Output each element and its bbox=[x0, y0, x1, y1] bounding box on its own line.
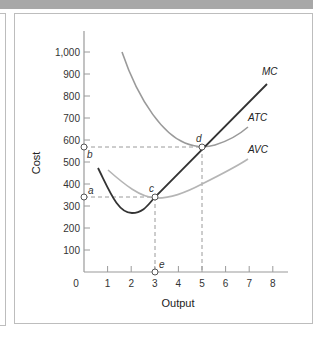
x-tick-8: 8 bbox=[270, 278, 276, 289]
point-d-label: d bbox=[196, 133, 202, 144]
y-tick-900: 900 bbox=[63, 69, 80, 80]
mc-label: MC bbox=[262, 66, 278, 77]
y-tick-800: 800 bbox=[63, 91, 80, 102]
y-tick-500: 500 bbox=[63, 157, 80, 168]
y-tick-400: 400 bbox=[63, 179, 80, 190]
point-d bbox=[199, 144, 205, 150]
x-tick-1: 1 bbox=[105, 278, 111, 289]
point-e bbox=[152, 269, 158, 275]
y-tick-300: 300 bbox=[63, 201, 80, 212]
y-tick-600: 600 bbox=[63, 135, 80, 146]
y-axis-title: Cost bbox=[30, 152, 42, 175]
atc-curve bbox=[122, 52, 248, 147]
y-tick-100: 100 bbox=[63, 245, 80, 256]
point-a bbox=[81, 194, 87, 200]
y-tick-200: 200 bbox=[63, 223, 80, 234]
x-tick-5: 5 bbox=[199, 278, 205, 289]
point-c bbox=[152, 194, 158, 200]
y-tick-labels: 100 200 300 400 500 600 700 800 900 1,00… bbox=[55, 47, 80, 256]
x-tick-2: 2 bbox=[128, 278, 134, 289]
avc-curve bbox=[108, 159, 248, 198]
x-tick-0: 0 bbox=[73, 278, 79, 289]
x-ticks bbox=[108, 266, 273, 272]
point-e-label: e bbox=[159, 259, 165, 270]
y-tick-1000: 1,000 bbox=[55, 47, 80, 58]
x-axis-title: Output bbox=[161, 297, 194, 309]
x-tick-6: 6 bbox=[223, 278, 229, 289]
x-tick-labels: 0 1 2 3 4 5 6 7 8 bbox=[73, 278, 276, 289]
avc-label: AVC bbox=[247, 144, 269, 155]
point-c-label: c bbox=[149, 183, 154, 194]
point-a-label: a bbox=[88, 185, 94, 196]
y-tick-700: 700 bbox=[63, 113, 80, 124]
x-tick-7: 7 bbox=[246, 278, 252, 289]
cost-curves-chart: 100 200 300 400 500 600 700 800 900 1,00… bbox=[0, 0, 327, 338]
point-b-label: b bbox=[87, 149, 93, 160]
x-tick-4: 4 bbox=[176, 278, 182, 289]
atc-label: ATC bbox=[247, 112, 268, 123]
x-tick-3: 3 bbox=[152, 278, 158, 289]
